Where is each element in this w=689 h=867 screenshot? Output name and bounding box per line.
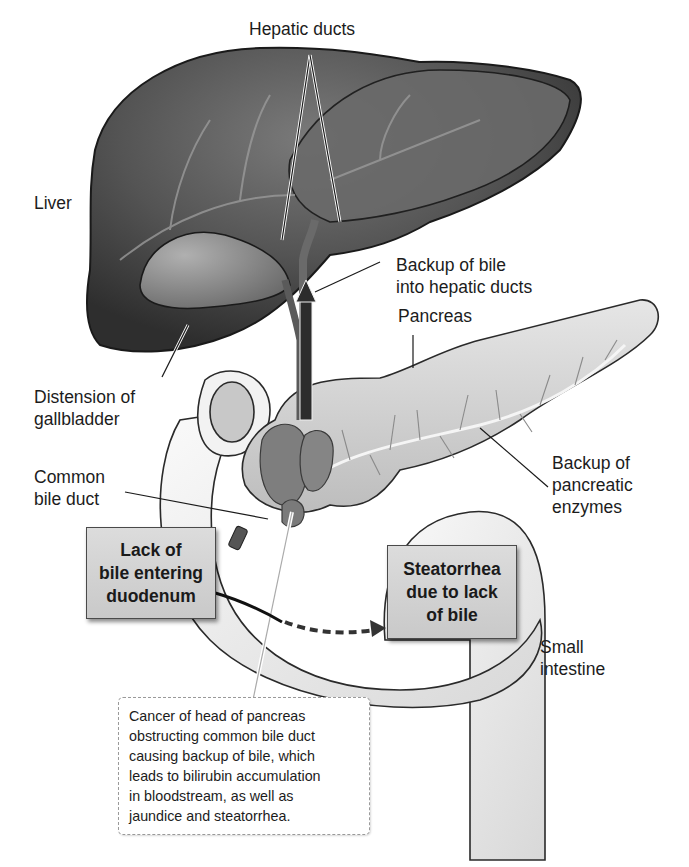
label-backup-enzymes: Backup of pancreatic enzymes (552, 452, 633, 518)
caption-line: causing backup of bile, which (129, 746, 363, 766)
callout-steatorrhea-line3: of bile (388, 604, 516, 627)
label-pancreas: Pancreas (398, 305, 472, 327)
callout-steatorrhea-line2: due to lack (388, 581, 516, 604)
label-backup-bile-line2: into hepatic ducts (396, 276, 532, 298)
label-hepatic-ducts: Hepatic ducts (249, 18, 355, 40)
label-distension-line2: gallbladder (34, 408, 135, 430)
callout-lack-of-bile: Lack of bile entering duodenum (86, 527, 216, 619)
label-small-intestine-line2: intestine (540, 658, 605, 680)
label-backup-enzymes-line2: pancreatic (552, 474, 633, 496)
callout-steatorrhea-line1: Steatorrhea (388, 558, 516, 581)
caption-box: Cancer of head of pancreas obstructing c… (118, 697, 370, 835)
label-backup-bile-line1: Backup of bile (396, 254, 532, 276)
callout-lack-of-bile-line1: Lack of (87, 539, 215, 562)
caption-line: leads to bilirubin accumulation (129, 766, 363, 786)
label-small-intestine-line1: Small (540, 636, 605, 658)
label-distension-gallbladder: Distension of gallbladder (34, 386, 135, 430)
callout-steatorrhea: Steatorrhea due to lack of bile (387, 545, 517, 639)
caption-line: Cancer of head of pancreas (129, 706, 363, 726)
label-common-bile-duct-line2: bile duct (34, 488, 105, 510)
label-backup-enzymes-line3: enzymes (552, 496, 633, 518)
caption-line: jaundice and steatorrhea. (129, 806, 363, 826)
label-liver: Liver (34, 192, 72, 214)
callout-lack-of-bile-line3: duodenum (87, 585, 215, 608)
caption-line: in bloodstream, as well as (129, 786, 363, 806)
label-backup-bile: Backup of bile into hepatic ducts (396, 254, 532, 298)
label-common-bile-duct: Common bile duct (34, 466, 105, 510)
label-common-bile-duct-line1: Common (34, 466, 105, 488)
label-distension-line1: Distension of (34, 386, 135, 408)
label-backup-enzymes-line1: Backup of (552, 452, 633, 474)
callout-lack-of-bile-line2: bile entering (87, 562, 215, 585)
caption-line: obstructing common bile duct (129, 726, 363, 746)
label-small-intestine: Small intestine (540, 636, 605, 680)
